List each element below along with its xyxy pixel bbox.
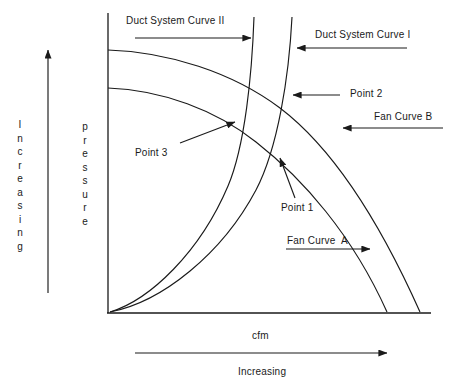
point-1-label: Point 1 (281, 203, 314, 213)
duct-system-curve-1-label: Duct System Curve I (315, 30, 411, 40)
x-axis-title-label: cfm (252, 331, 269, 341)
fan-curve-a-path (108, 88, 387, 312)
y-axis-title-letter: s (77, 174, 93, 188)
plot-axes (107, 13, 431, 313)
y-axis-title-letter: e (77, 215, 93, 229)
y-increasing-letter: r (12, 159, 28, 173)
y-increasing-letter: n (12, 132, 28, 146)
fan-curve-a-label: Fan Curve A (287, 236, 348, 246)
y-increasing-letter: g (12, 240, 28, 254)
y-axis-title-letter: u (77, 188, 93, 202)
point-1-leader (280, 158, 295, 198)
y-increasing-letter: c (12, 145, 28, 159)
y-axis-increasing-label: I n c r e a s i n g (12, 118, 28, 253)
diagram-canvas (0, 0, 463, 390)
duct-system-curve-1-path (110, 17, 292, 312)
y-increasing-letter: I (12, 118, 28, 132)
y-axis-title-label: p r e s s u r e (77, 120, 93, 228)
point-2-label: Point 2 (350, 89, 383, 99)
callout-leaders (135, 38, 443, 249)
y-increasing-letter: a (12, 186, 28, 200)
y-axis-title-letter: r (77, 134, 93, 148)
y-increasing-letter: n (12, 226, 28, 240)
x-axis-increasing-label: Increasing (238, 367, 286, 377)
duct-system-curves (110, 17, 292, 312)
y-axis-title-letter: s (77, 161, 93, 175)
y-axis-title-letter: r (77, 201, 93, 215)
y-increasing-letter: i (12, 213, 28, 227)
fan-curve-b-label: Fan Curve B (374, 112, 432, 122)
y-axis-title-letter: p (77, 120, 93, 134)
y-increasing-letter: e (12, 172, 28, 186)
point-3-leader (180, 122, 235, 143)
y-increasing-letter: s (12, 199, 28, 213)
duct-system-curve-2-label: Duct System Curve II (126, 16, 224, 26)
fan-curve-diagram: I n c r e a s i n g p r e s s u r e Duct… (0, 0, 463, 390)
point-3-label: Point 3 (135, 148, 168, 158)
y-axis-title-letter: e (77, 147, 93, 161)
